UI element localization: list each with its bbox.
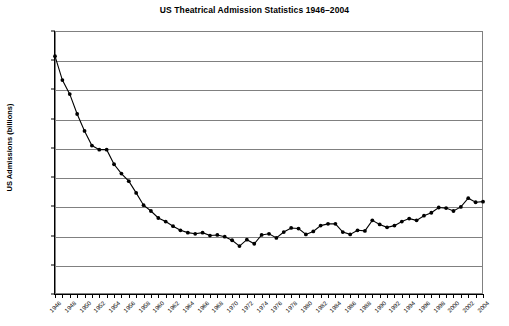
x-tick-label: 1988 [358, 300, 372, 314]
gridline [56, 266, 482, 267]
x-tick-label: 1990 [373, 300, 387, 314]
gridline [56, 90, 482, 91]
x-tick-label: 1970 [226, 300, 240, 314]
x-tick-label: 1948 [63, 300, 77, 314]
x-tick-label: 1978 [285, 300, 299, 314]
x-tick-label: 1998 [432, 300, 446, 314]
gridline [56, 237, 482, 238]
gridline [56, 120, 482, 121]
x-axis-spine [54, 294, 484, 295]
gridline [56, 61, 482, 62]
x-tick-label: 1986 [344, 300, 358, 314]
x-tick-label: 1994 [403, 300, 417, 314]
plot-area [55, 31, 483, 294]
x-tick-label: 1952 [93, 300, 107, 314]
x-tick-label: 1962 [167, 300, 181, 314]
x-tick-label: 1976 [270, 300, 284, 314]
x-tick-label: 1966 [196, 300, 210, 314]
y-axis-spine [54, 31, 55, 295]
x-tick-label: 1980 [299, 300, 313, 314]
x-tick-label: 1996 [418, 300, 432, 314]
x-tick-label: 1954 [108, 300, 122, 314]
gridline [56, 149, 482, 150]
x-tick-label: 1974 [255, 300, 269, 314]
x-tick-label: 1960 [152, 300, 166, 314]
x-tick-label: 1984 [329, 300, 343, 314]
x-tick-label: 1992 [388, 300, 402, 314]
x-tick-label: 1982 [314, 300, 328, 314]
chart-container: US Theatrical Admission Statistics 1946–… [0, 0, 509, 326]
x-tick-label: 1958 [137, 300, 151, 314]
chart-title: US Theatrical Admission Statistics 1946–… [0, 5, 509, 15]
x-tick-label: 2002 [462, 300, 476, 314]
x-tick-label: 2000 [447, 300, 461, 314]
gridline [56, 207, 482, 208]
x-tick-label: 1950 [78, 300, 92, 314]
x-tick-label: 1972 [240, 300, 254, 314]
x-tick-label: 1956 [122, 300, 136, 314]
x-tick-label: 1968 [211, 300, 225, 314]
y-axis-ticks: 0.000.501.001.502.002.503.003.504.004.50 [0, 0, 55, 326]
x-tick-label: 1964 [181, 300, 195, 314]
gridline [56, 178, 482, 179]
x-tick-label: 2004 [477, 300, 491, 314]
